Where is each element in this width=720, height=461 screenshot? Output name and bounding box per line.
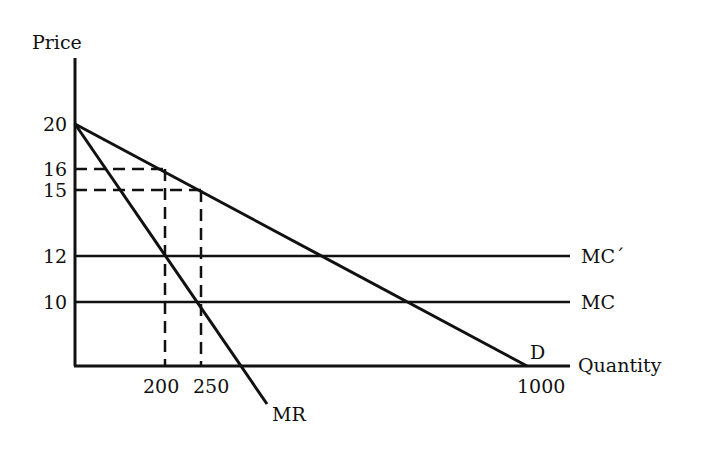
y-tick-12: 12 <box>43 245 67 267</box>
y-tick-10: 10 <box>43 291 67 313</box>
y-tick-16: 16 <box>43 158 67 180</box>
demand-label: D <box>530 341 545 363</box>
x-tick-200: 200 <box>143 375 179 397</box>
x-axis-label: Quantity <box>578 354 662 376</box>
y-tick-15: 15 <box>43 179 67 201</box>
mc-label: MC <box>581 291 615 313</box>
monopoly-diagram: Price Quantity 20 16 15 12 10 200 250 10… <box>0 0 720 461</box>
x-tick-1000: 1000 <box>517 375 565 397</box>
x-tick-250: 250 <box>193 375 229 397</box>
y-tick-20: 20 <box>43 113 67 135</box>
demand-curve <box>75 124 527 366</box>
marginal-revenue-curve <box>75 124 267 404</box>
y-axis-label: Price <box>32 31 82 53</box>
mc-prime-label: MC´ <box>581 245 625 267</box>
mr-label: MR <box>272 403 306 425</box>
